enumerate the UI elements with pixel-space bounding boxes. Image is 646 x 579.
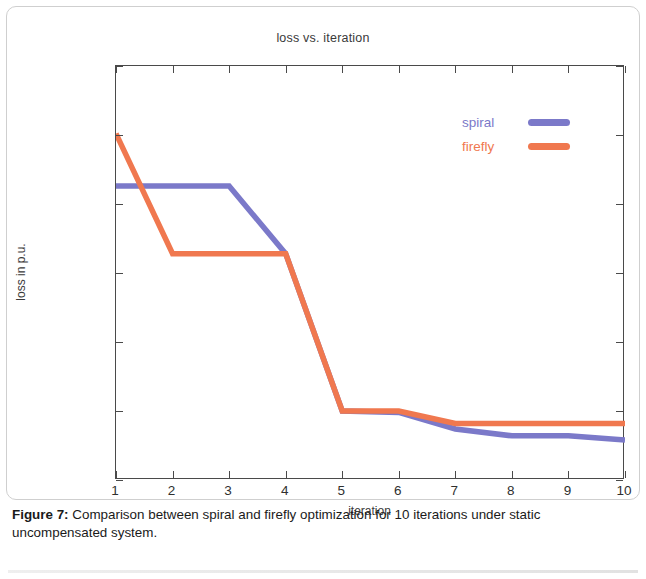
x-tick-top — [625, 66, 626, 73]
y-tick-right — [616, 204, 623, 205]
x-tick-label: 4 — [265, 483, 305, 498]
y-tick-right — [616, 342, 623, 343]
figure-card: loss vs. iteration 0.05440.05430.05430.0… — [6, 6, 640, 500]
x-tick — [286, 471, 287, 478]
x-tick-label: 1 — [95, 483, 135, 498]
x-tick-top — [116, 66, 117, 73]
chart-legend: spiral firefly — [462, 110, 582, 158]
y-tick — [116, 273, 123, 274]
x-tick — [399, 471, 400, 478]
legend-label-firefly: firefly — [462, 139, 522, 154]
x-tick-top — [568, 66, 569, 73]
line-series-firefly — [116, 134, 625, 424]
y-tick — [116, 342, 123, 343]
x-tick — [342, 471, 343, 478]
x-tick-label: 9 — [547, 483, 587, 498]
x-tick — [173, 471, 174, 478]
y-tick-right — [616, 135, 623, 136]
x-tick-label: 5 — [321, 483, 361, 498]
legend-item-firefly: firefly — [462, 134, 582, 158]
x-tick-top — [455, 66, 456, 73]
figure-caption: Figure 7: Comparison between spiral and … — [12, 506, 636, 541]
x-tick-top — [173, 66, 174, 73]
x-tick — [512, 471, 513, 478]
y-tick — [116, 204, 123, 205]
x-tick-label: 6 — [378, 483, 418, 498]
x-tick — [229, 471, 230, 478]
x-tick-label: 8 — [491, 483, 531, 498]
y-tick — [116, 480, 123, 481]
x-tick — [568, 471, 569, 478]
line-series-spiral — [116, 186, 625, 440]
legend-label-spiral: spiral — [462, 115, 522, 130]
x-tick — [455, 471, 456, 478]
y-axis-title: loss in p.u. — [14, 243, 28, 300]
y-tick-right — [616, 480, 623, 481]
x-tick-label: 3 — [208, 483, 248, 498]
figure-caption-text: Comparison between spiral and firefly op… — [12, 507, 540, 540]
y-tick-right — [616, 411, 623, 412]
legend-swatch-firefly — [528, 143, 570, 150]
x-tick-top — [512, 66, 513, 73]
x-tick-label: 7 — [434, 483, 474, 498]
y-tick-right — [616, 66, 623, 67]
figure-caption-label: Figure 7: — [12, 507, 69, 522]
x-tick-top — [399, 66, 400, 73]
page-divider — [8, 570, 638, 573]
x-tick — [116, 471, 117, 478]
y-tick-right — [616, 273, 623, 274]
y-tick — [116, 66, 123, 67]
chart-title: loss vs. iteration — [7, 31, 639, 45]
y-tick — [116, 135, 123, 136]
x-tick-top — [229, 66, 230, 73]
x-tick-top — [286, 66, 287, 73]
x-tick-top — [342, 66, 343, 73]
x-tick-label: 10 — [604, 483, 644, 498]
legend-swatch-spiral — [528, 119, 570, 126]
y-tick — [116, 411, 123, 412]
x-tick — [625, 471, 626, 478]
x-tick-label: 2 — [152, 483, 192, 498]
legend-item-spiral: spiral — [462, 110, 582, 134]
